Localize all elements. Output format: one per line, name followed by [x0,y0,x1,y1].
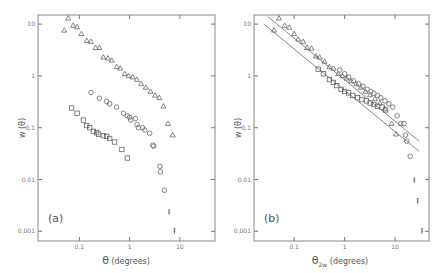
y-tick-label: 0.001 [234,227,251,234]
data-point-triangle [84,38,89,42]
panel-a: 1010.10.010.0010.1110w (θ)θ (degrees)(a) [18,15,215,267]
data-point-circle [133,116,138,121]
data-point-triangle [66,16,71,20]
data-point-triangle [301,39,306,43]
data-point-triangle [71,23,76,27]
x-tick-label: 10 [391,243,399,250]
y-tick-label: 0.01 [238,176,252,183]
data-point-square [125,156,129,160]
data-point-triangle [309,46,314,50]
data-point-triangle [292,31,297,35]
chart-figure: 1010.10.010.0010.1110w (θ)θ (degrees)(a)… [0,0,447,273]
data-point-circle [89,90,94,95]
y-tick-label: 1 [31,72,35,79]
data-point-triangle [276,16,281,20]
x-axis-label: θ2w (degrees) [312,254,368,268]
data-point-triangle [114,64,119,68]
x-tick-label: 10 [176,243,184,250]
fit-line [268,17,419,142]
y-tick-label: 0.001 [18,227,35,234]
x-tick-label: 0.1 [289,243,299,250]
data-point-circle [162,188,167,193]
data-point-triangle [105,56,110,60]
y-tick-label: 1 [247,72,251,79]
data-point-circle [403,133,408,138]
data-point-triangle [327,64,332,68]
data-point-triangle [122,71,127,75]
x-tick-label: 1 [128,243,132,250]
panel-label: (a) [48,212,63,225]
data-point-triangle [97,45,102,49]
data-point-circle [128,118,133,123]
data-point-triangle [165,121,170,125]
data-point-circle [390,105,395,110]
data-point-square [69,106,73,110]
data-point-circle [402,121,407,126]
data-point-triangle [322,59,327,63]
data-point-circle [375,93,380,98]
data-point-triangle [88,39,93,43]
data-point-triangle [139,81,144,85]
data-point-triangle [170,133,175,137]
panel-b: 1010.10.010.0010.1110w (θ)θ2w (degrees)(… [234,15,429,268]
data-point-circle [378,95,383,100]
data-point-square [81,118,85,122]
data-point-triangle [79,31,84,35]
x-tick-label: 1 [343,243,347,250]
data-point-triangle [282,23,287,27]
data-point-triangle [272,28,277,32]
data-point-triangle [130,74,135,78]
data-point-triangle [143,85,148,89]
data-point-triangle [373,96,378,100]
x-tick-label: 0.1 [75,243,85,250]
y-tick-label: 0.01 [22,176,36,183]
data-point-triangle [62,28,67,32]
data-point-triangle [161,104,166,108]
data-point-square [75,111,79,115]
data-point-circle [395,113,400,118]
y-axis-label: w (θ) [234,118,243,138]
panel-label: (b) [264,212,280,225]
data-point-circle [158,164,163,169]
y-tick-label: 10 [243,20,251,27]
x-axis-label: θ (degrees) [102,254,150,267]
data-point-triangle [389,121,394,125]
data-point-circle [337,68,342,73]
data-point-triangle [101,55,106,59]
data-point-square [120,147,124,151]
data-point-circle [386,101,391,106]
data-point-circle [408,154,413,159]
data-point-square [112,140,116,144]
y-axis-label: w (θ) [18,118,27,138]
data-point-circle [97,96,102,101]
data-point-square [360,97,364,101]
data-point-circle [114,105,119,110]
data-point-triangle [296,37,301,41]
plot-frame [38,15,215,241]
data-point-circle [147,131,152,136]
data-point-circle [158,170,163,175]
y-tick-label: 10 [27,20,35,27]
